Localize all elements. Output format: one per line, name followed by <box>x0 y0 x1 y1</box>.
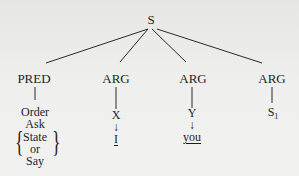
arg-node-3: ARG <box>258 72 285 85</box>
arg1-value-i: I <box>114 133 118 145</box>
arg-node-2: ARG <box>179 72 206 85</box>
edge-s-arg2 <box>152 29 186 62</box>
arg3-value-s1: S1 <box>268 106 279 123</box>
root-node-s: S <box>147 13 154 26</box>
right-brace-icon: } <box>52 126 61 156</box>
syntax-tree-diagram: S PRED ARG ARG ARG Order Ask { State or … <box>0 0 299 176</box>
s1-subscript: 1 <box>274 112 278 121</box>
arg2-value-you: you <box>183 131 201 143</box>
s1-base: S <box>268 105 275 119</box>
arg-node-1: ARG <box>102 72 129 85</box>
pred-leaf-ask: Ask <box>25 118 44 130</box>
edge-s-pred <box>46 29 148 63</box>
edge-s-arg3 <box>157 29 262 63</box>
pred-leaf-say: Say <box>26 155 44 167</box>
pred-node: PRED <box>17 72 50 85</box>
